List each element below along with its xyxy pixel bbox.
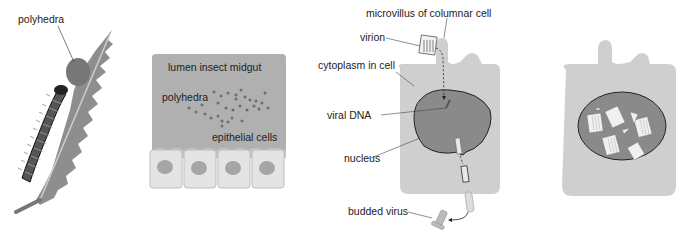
midgut-polyhedra-label: polyhedra — [162, 92, 208, 103]
infected-cell-panel — [371, 18, 500, 230]
leaf-stem — [16, 200, 40, 212]
viral-dna-label: viral DNA — [327, 110, 371, 121]
polyhedra-spot — [66, 58, 90, 86]
leaf-polyhedra-label: polyhedra — [18, 14, 64, 25]
budded-virus — [431, 208, 450, 230]
microvillus-label: microvillus of columnar cell — [366, 8, 491, 19]
budding-virus — [465, 192, 475, 213]
midgut-panel — [150, 54, 286, 188]
polyhedra-leader — [58, 26, 74, 62]
late-cell-panel — [562, 40, 676, 196]
epithelial-label: epithelial cells — [212, 132, 277, 143]
virion — [419, 35, 437, 55]
nucleus-label: nucleus — [344, 153, 380, 164]
budded-virus-label: budded virus — [348, 206, 408, 217]
leaf-panel — [16, 26, 113, 212]
cytoplasm-label: cytoplasm in cell — [318, 60, 395, 71]
lumen-label: lumen insect midgut — [168, 62, 261, 73]
virion-label: virion — [360, 32, 385, 43]
release-arrow — [452, 212, 468, 220]
